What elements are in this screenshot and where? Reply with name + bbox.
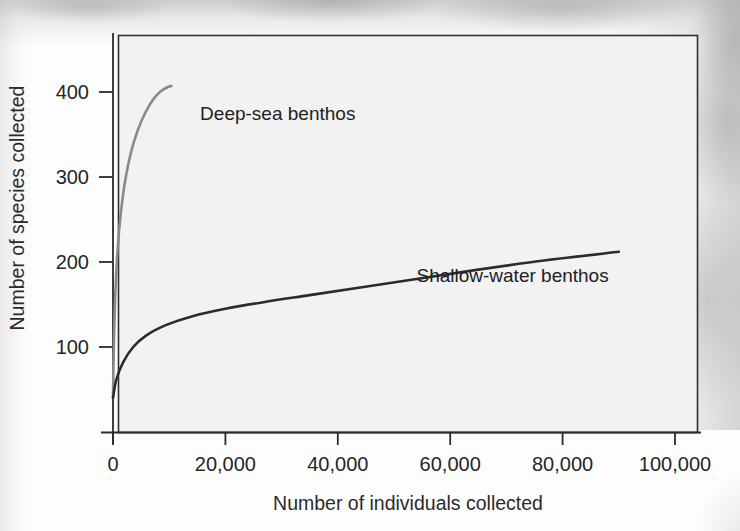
x-tick-label: 20,000 bbox=[195, 453, 256, 475]
species-accumulation-chart: 020,00040,00060,00080,000100,000 1002003… bbox=[0, 0, 740, 531]
y-tick-label: 200 bbox=[56, 251, 89, 273]
y-tick-label: 100 bbox=[56, 336, 89, 358]
x-tick-label: 60,000 bbox=[420, 453, 481, 475]
chart-canvas: 020,00040,00060,00080,000100,000 1002003… bbox=[0, 0, 740, 531]
x-tick-label: 0 bbox=[107, 453, 118, 475]
y-tick-label: 300 bbox=[56, 166, 89, 188]
y-tick-label: 400 bbox=[56, 81, 89, 103]
x-tick-label: 100,000 bbox=[639, 453, 711, 475]
plot-background bbox=[118, 35, 697, 432]
x-axis-ticks: 020,00040,00060,00080,000100,000 bbox=[107, 432, 711, 475]
y-axis-ticks: 100200300400 bbox=[56, 81, 113, 358]
series-annotation: Shallow-water benthos bbox=[416, 265, 608, 286]
x-tick-label: 80,000 bbox=[532, 453, 593, 475]
x-tick-label: 40,000 bbox=[307, 453, 368, 475]
series-annotation: Deep-sea benthos bbox=[200, 103, 355, 124]
